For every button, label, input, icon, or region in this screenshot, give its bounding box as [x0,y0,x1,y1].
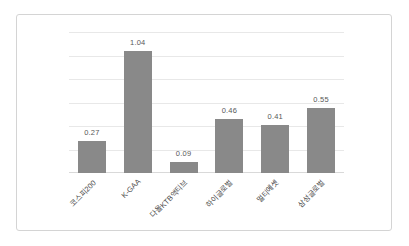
category-label-slot-2: 다올KTB액티브 [161,173,207,231]
category-label-text: K-GAA [119,177,142,200]
category-labels: 코스피200 K-GAA 다올KTB액티브 하이글로벌 멀티에셋 삼성글로벌 [69,173,344,231]
bar-slot-2: 0.09 [161,32,207,173]
bar-slot-0: 0.27 [69,32,115,173]
bar-value-label: 0.27 [84,128,99,137]
bar-value-label: 0.09 [176,149,191,158]
category-label-slot-1: K-GAA [115,173,161,231]
category-label-text: 하이글로벌 [203,177,236,210]
category-label-text: 코스피200 [66,177,97,208]
bar-value-label: 1.04 [130,38,145,47]
bar-value-label: 0.41 [268,112,283,121]
bar-slot-4: 0.41 [252,32,298,173]
bar-rect[interactable] [124,51,152,173]
bar-slot-1: 1.04 [115,32,161,173]
bar-value-label: 0.55 [313,95,328,104]
bar-value-label: 0.46 [222,106,237,115]
category-label-text: 삼성글로벌 [294,177,327,210]
category-label-slot-4: 멀티에셋 [252,173,298,231]
bar-slot-5: 0.55 [298,32,344,173]
chart-frame: 0.27 1.04 0.09 0.46 0.41 0.55 [16,14,392,231]
category-label-slot-3: 하이글로벌 [207,173,253,231]
category-label-slot-0: 코스피200 [69,173,115,231]
category-label-slot-5: 삼성글로벌 [298,173,344,231]
category-label-text: 멀티에셋 [253,177,281,205]
